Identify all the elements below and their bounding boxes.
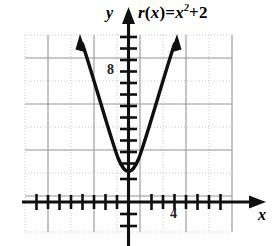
- coordinate-plane: [0, 0, 278, 246]
- x-axis-label: x: [258, 206, 266, 224]
- constant-term: 2: [199, 3, 208, 22]
- x-axis-tick-label-4: 4: [170, 206, 177, 222]
- function-name: r: [138, 3, 145, 22]
- function-equation-label: r(x)=x2+2: [138, 2, 208, 23]
- equals-sign: =: [165, 3, 175, 22]
- plus-sign: +: [189, 3, 199, 22]
- expression-base: x: [175, 3, 184, 22]
- y-axis-tick-label-8: 8: [107, 62, 114, 78]
- graph-figure: y x 8 4 r(x)=x2+2: [0, 0, 278, 246]
- y-axis-label: y: [106, 4, 113, 22]
